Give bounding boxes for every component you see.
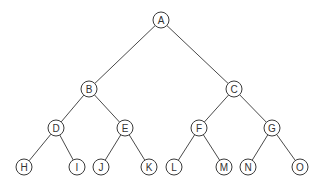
- edge-d-h: [29, 134, 51, 161]
- edge-b-e: [94, 95, 119, 122]
- node-m: M: [216, 159, 232, 175]
- node-i: I: [69, 159, 85, 175]
- node-o: O: [292, 159, 308, 175]
- node-label: G: [268, 123, 276, 134]
- node-label: O: [296, 162, 304, 173]
- node-label: E: [122, 123, 129, 134]
- edge-e-j: [105, 135, 121, 160]
- edge-b-d: [61, 95, 84, 122]
- node-label: C: [230, 84, 237, 95]
- node-label: L: [171, 162, 177, 173]
- node-f: F: [191, 120, 207, 136]
- node-n: N: [240, 159, 256, 175]
- edges-group: [29, 25, 295, 160]
- node-h: H: [16, 159, 32, 175]
- node-label: F: [196, 123, 202, 134]
- edge-g-o: [277, 134, 296, 160]
- edge-c-f: [204, 95, 228, 122]
- node-label: I: [76, 162, 79, 173]
- node-label: B: [86, 84, 93, 95]
- node-g: G: [264, 120, 280, 136]
- edge-e-k: [129, 135, 145, 160]
- binary-tree-diagram: ABCDEFGHIJKLMNO: [0, 0, 324, 192]
- nodes-group: ABCDEFGHIJKLMNO: [16, 12, 308, 175]
- node-label: J: [99, 162, 104, 173]
- node-label: M: [220, 162, 228, 173]
- edge-a-b: [95, 26, 155, 84]
- node-label: H: [20, 162, 27, 173]
- node-label: N: [244, 162, 251, 173]
- node-l: L: [166, 159, 182, 175]
- node-label: D: [52, 123, 59, 134]
- node-c: C: [226, 81, 242, 97]
- node-a: A: [153, 12, 169, 28]
- edge-f-l: [178, 135, 194, 161]
- edge-f-m: [203, 135, 219, 161]
- edge-d-i: [60, 135, 73, 160]
- node-j: J: [93, 159, 109, 175]
- edge-a-c: [167, 25, 228, 83]
- node-label: A: [158, 15, 165, 26]
- node-e: E: [117, 120, 133, 136]
- edge-g-n: [252, 135, 268, 160]
- node-label: K: [146, 162, 153, 173]
- node-k: K: [141, 159, 157, 175]
- edge-c-g: [240, 95, 267, 123]
- node-b: B: [81, 81, 97, 97]
- node-d: D: [48, 120, 64, 136]
